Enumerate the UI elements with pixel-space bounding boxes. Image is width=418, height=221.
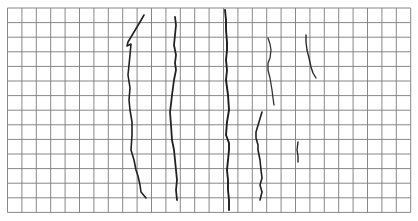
strand-6 [306,35,316,78]
strand-7 [297,142,298,162]
strand-1 [127,15,146,198]
grid-lines [8,8,411,212]
strand-4 [268,38,274,105]
grid-paper-photo [0,0,418,221]
strand-2 [170,17,177,200]
grid-paper-canvas [0,0,418,221]
